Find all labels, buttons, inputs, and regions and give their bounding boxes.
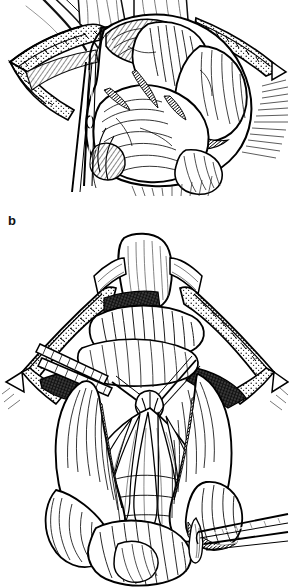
figure-root: b — [0, 0, 289, 587]
panel-b-label: b — [8, 214, 16, 227]
panel-b — [0, 232, 289, 587]
panel-a — [0, 0, 289, 196]
